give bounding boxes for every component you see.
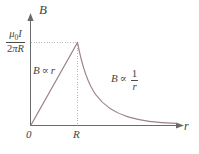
inverse-denominator: r bbox=[131, 81, 139, 93]
linear-expression: r bbox=[51, 64, 55, 76]
origin-label: 0 bbox=[26, 129, 32, 140]
linear-region-annotation: B∝r bbox=[33, 65, 55, 76]
x-axis-arrowhead bbox=[176, 122, 184, 128]
peak-value-label: μ0I 2πR bbox=[6, 28, 25, 54]
x-tick-label-radius: R bbox=[73, 129, 80, 140]
peak-value-denominator: 2πR bbox=[6, 43, 25, 54]
radius-symbol: R bbox=[18, 43, 24, 54]
peak-value-numerator: μ0I bbox=[6, 28, 25, 43]
current-symbol: I bbox=[18, 28, 22, 39]
linear-quantity: B bbox=[33, 64, 40, 76]
magnetic-field-plot-figure: B r 0 R μ0I 2πR B∝r B∝1r bbox=[0, 0, 199, 154]
y-axis-arrowhead bbox=[27, 13, 33, 21]
x-axis-label: r bbox=[184, 120, 189, 132]
proportional-icon: ∝ bbox=[42, 65, 49, 76]
linear-rise-curve bbox=[31, 43, 78, 126]
inverse-fraction: 1r bbox=[131, 68, 139, 92]
y-axis-label: B bbox=[39, 3, 47, 16]
inverse-region-annotation: B∝1r bbox=[111, 67, 138, 91]
inverse-quantity: B bbox=[111, 72, 118, 84]
peak-value-fraction: μ0I 2πR bbox=[6, 28, 25, 54]
proportional-icon: ∝ bbox=[120, 73, 127, 84]
inverse-numerator: 1 bbox=[131, 68, 139, 81]
